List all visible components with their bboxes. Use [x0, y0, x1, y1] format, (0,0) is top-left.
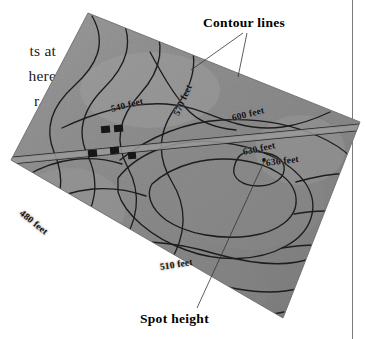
- annotation-contour-lines: Contour lines: [203, 15, 285, 31]
- map-sheet: [6, 13, 362, 326]
- contour-map-figure: [0, 0, 365, 339]
- leader-contour-lines-right: [238, 33, 247, 77]
- contour-map-svg: [0, 0, 365, 339]
- building-2: [114, 125, 124, 133]
- building-5: [128, 152, 137, 160]
- building-4: [110, 147, 120, 155]
- building-1: [101, 126, 111, 134]
- building-3: [88, 150, 98, 158]
- annotation-spot-height: Spot height: [140, 311, 209, 327]
